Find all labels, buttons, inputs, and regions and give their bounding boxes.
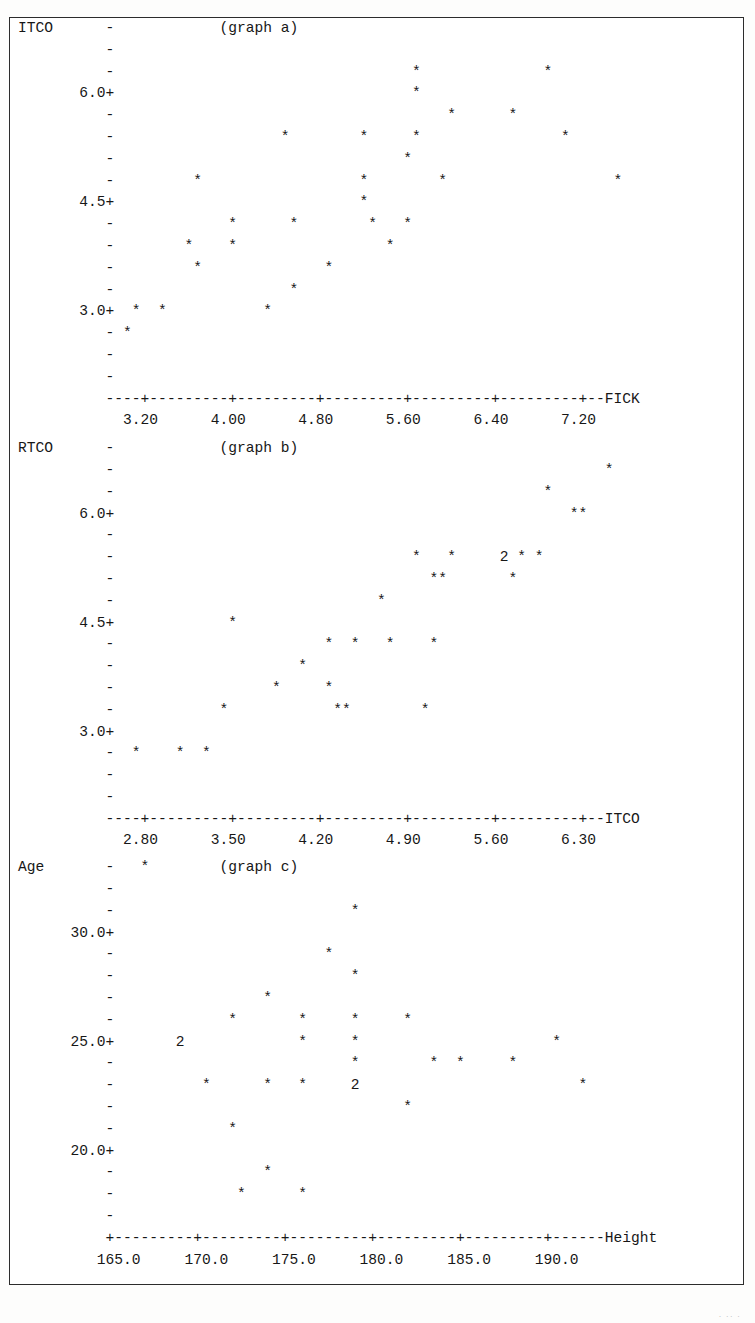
graph-a-ascii-plot: ITCO - (graph a) - - * * 6.0+ * -: [18, 18, 743, 432]
graphs-container: ITCO - (graph a) - - * * 6.0+ * -: [10, 18, 743, 1284]
graph-c-block: Age - * (graph c) - - * 30.0+ - * - * -: [10, 857, 743, 1271]
graph-a-block: ITCO - (graph a) - - * * 6.0+ * -: [10, 18, 743, 432]
graph-b-ascii-plot: RTCO - (graph b) - * - * 6.0+: [18, 438, 743, 852]
graph-b-block: RTCO - (graph b) - * - * 6.0+: [10, 438, 743, 852]
page-tail-mark: · ·· ·: [719, 1311, 742, 1321]
graph-c-ascii-plot: Age - * (graph c) - - * 30.0+ - * - * -: [18, 857, 743, 1271]
page-canvas: ITCO - (graph a) - - * * 6.0+ * -: [0, 0, 755, 1323]
